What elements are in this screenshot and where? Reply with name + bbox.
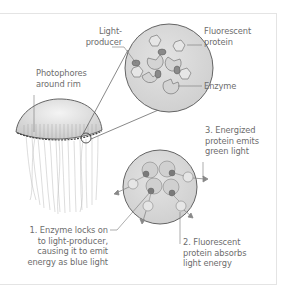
label-line: protein (204, 37, 251, 48)
fluorescent-protein-label: Fluorescent protein (204, 26, 251, 47)
label-line: Fluorescent (204, 26, 251, 37)
step-line: 3. Energized (205, 125, 259, 136)
step-line: to light-producer, (10, 236, 108, 247)
step-line: 1. Enzyme locks on (10, 225, 108, 236)
photophores-label: Photophores around rim (36, 68, 87, 89)
step-line: light energy (183, 258, 246, 269)
jellyfish-bell (16, 99, 102, 139)
step-line: protein emits (205, 136, 259, 147)
label-line: producer (82, 37, 122, 48)
jellyfish-illustration (16, 99, 102, 214)
reaction-circle (123, 150, 197, 224)
label-line: Photophores (36, 68, 87, 79)
step-3-label: 3. Energized protein emits green light (205, 125, 259, 157)
light-producer-label: Light- producer (82, 26, 122, 47)
components-circle (125, 24, 213, 112)
step-line: 2. Fluorescent (183, 237, 246, 248)
label-line: around rim (36, 79, 87, 90)
step-line: causing it to emit (10, 246, 108, 257)
label-line: Light- (82, 26, 122, 37)
step-line: green light (205, 146, 259, 157)
enzyme-label: Enzyme (204, 81, 236, 92)
tentacles (26, 135, 98, 214)
step-line: protein absorbs (183, 248, 246, 259)
step-1-label: 1. Enzyme locks on to light-producer, ca… (10, 225, 108, 267)
step-line: energy as blue light (10, 257, 108, 268)
step-2-label: 2. Fluorescent protein absorbs light ene… (183, 237, 246, 269)
